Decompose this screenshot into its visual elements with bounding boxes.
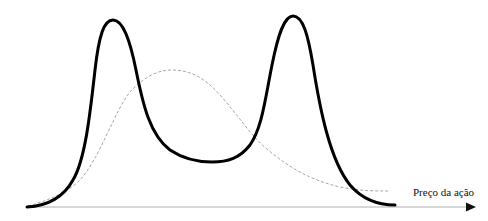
x-axis-arrow-icon (466, 203, 476, 212)
series-bimodal-curve (27, 16, 395, 207)
series-unimodal-curve (28, 70, 390, 206)
x-axis-label: Preço da ação (413, 186, 475, 198)
chart-canvas: Preço da ação (0, 0, 488, 221)
